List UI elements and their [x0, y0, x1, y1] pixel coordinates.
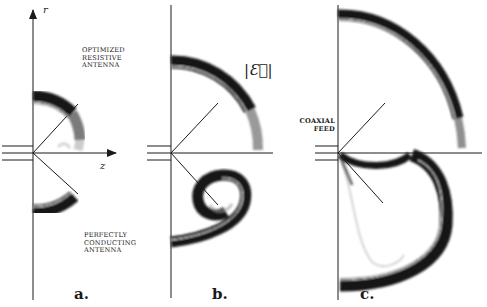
field-ring-upper — [33, 97, 80, 150]
panel-c-tag: c. — [360, 286, 374, 303]
field-spiral-lower-b — [171, 175, 246, 242]
panel-a-tag: a. — [74, 286, 89, 303]
antenna-upper-arm-b — [171, 103, 218, 153]
coaxial-feed-label: COAXIAL FEED — [297, 118, 335, 133]
r-axis-label: r — [43, 4, 48, 16]
panel-b-tag: b. — [212, 286, 228, 303]
panel-c — [315, 5, 482, 300]
coax-feed-lines — [2, 146, 33, 160]
antenna-upper-arm-c — [338, 103, 385, 153]
panel-b — [147, 5, 273, 298]
coax-feed-lines-c — [315, 146, 338, 160]
antenna-lower-arm — [33, 153, 78, 194]
field-ring-lower-c — [340, 155, 446, 285]
z-axis-label: z — [100, 160, 105, 172]
field-ring-lower — [33, 193, 74, 211]
perfectly-conducting-label: PERFECTLY CONDUCTING ANTENNA — [84, 232, 136, 255]
coax-feed-lines-b — [147, 146, 171, 160]
antenna-field-diagram — [0, 0, 487, 307]
label-line: ANTENNA — [82, 62, 125, 70]
label-line: FEED — [297, 126, 335, 134]
field-ring-upper-c — [338, 15, 462, 148]
label-line: ANTENNA — [84, 247, 136, 255]
field-magnitude-label: |Ɛ⃗| — [244, 62, 272, 79]
optimized-resistive-label: OPTIMIZED RESISTIVE ANTENNA — [82, 47, 125, 70]
